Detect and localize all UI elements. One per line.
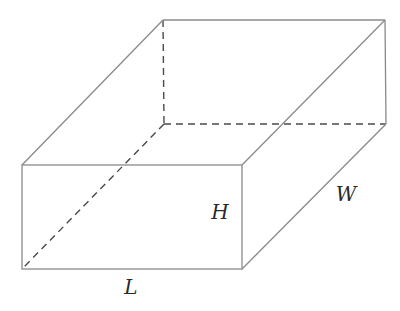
height-label: H [211,202,228,222]
front-face [22,165,242,269]
hidden-edges [22,20,386,269]
edge-top-left-depth [22,20,163,165]
edge-bottom-right-depth [242,124,386,269]
hidden-edge-bottom-left-depth [22,124,164,269]
width-label: W [336,184,357,204]
edge-top-right-depth [242,20,385,165]
length-label: L [124,277,137,297]
visible-edges [22,20,386,269]
edge-back-right-vertical [385,20,386,124]
cuboid-diagram [0,0,400,311]
hidden-edge-back-left-vertical [163,20,164,124]
